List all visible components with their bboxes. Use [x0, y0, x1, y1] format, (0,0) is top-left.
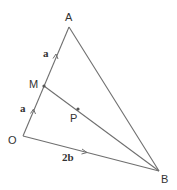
- segment-ob: [23, 136, 159, 171]
- vector-label-ma: a: [43, 47, 49, 59]
- label-o: O: [8, 134, 17, 146]
- label-p: P: [70, 112, 77, 124]
- vector-diagram: A M O B P a a 2b: [0, 0, 177, 190]
- point-m: [42, 84, 45, 87]
- label-b: B: [161, 173, 168, 185]
- vector-label-om: a: [20, 102, 26, 114]
- label-m: M: [29, 78, 38, 90]
- point-p: [76, 107, 79, 110]
- vector-label-ob: 2b: [62, 151, 74, 163]
- label-a: A: [65, 11, 73, 23]
